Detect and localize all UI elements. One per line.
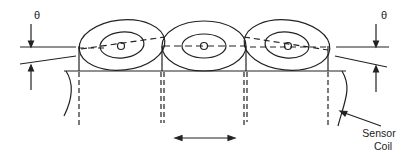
sensor-label-line1: Sensor: [362, 127, 396, 139]
projection-lines: [79, 72, 328, 127]
left-tilted-coil: [77, 16, 168, 75]
theta-dimension-left: [20, 24, 76, 90]
theta-label-left: θ: [34, 9, 40, 21]
theta-label-right: θ: [381, 9, 387, 21]
right-break-line: [338, 71, 347, 126]
motion-arrow: [175, 136, 235, 141]
left-break-line: [64, 71, 72, 116]
sensor-coil-diagram: θ θ Sensor Coil: [0, 0, 409, 157]
theta-dimension-right: [335, 24, 389, 92]
center-coil: [162, 21, 246, 71]
right-tilted-coil: [242, 16, 333, 75]
diagram-canvas: θ θ Sensor Coil: [0, 0, 409, 157]
sensor-coil-pointer: [340, 111, 381, 126]
sensor-label-line2: Coil: [374, 140, 392, 152]
